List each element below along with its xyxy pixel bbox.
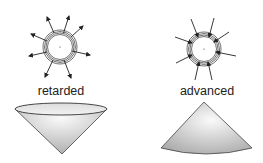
- advanced-center-dot: [203, 48, 204, 49]
- retarded-cone: [15, 103, 107, 154]
- retarded-label: retarded: [38, 84, 85, 98]
- advanced-cone: [161, 102, 252, 154]
- retarded-center-dot: [59, 46, 60, 47]
- diagram-canvas: retarded advanced: [0, 0, 263, 163]
- advanced-label: advanced: [180, 84, 234, 98]
- advanced-inward-arrows: [175, 18, 236, 80]
